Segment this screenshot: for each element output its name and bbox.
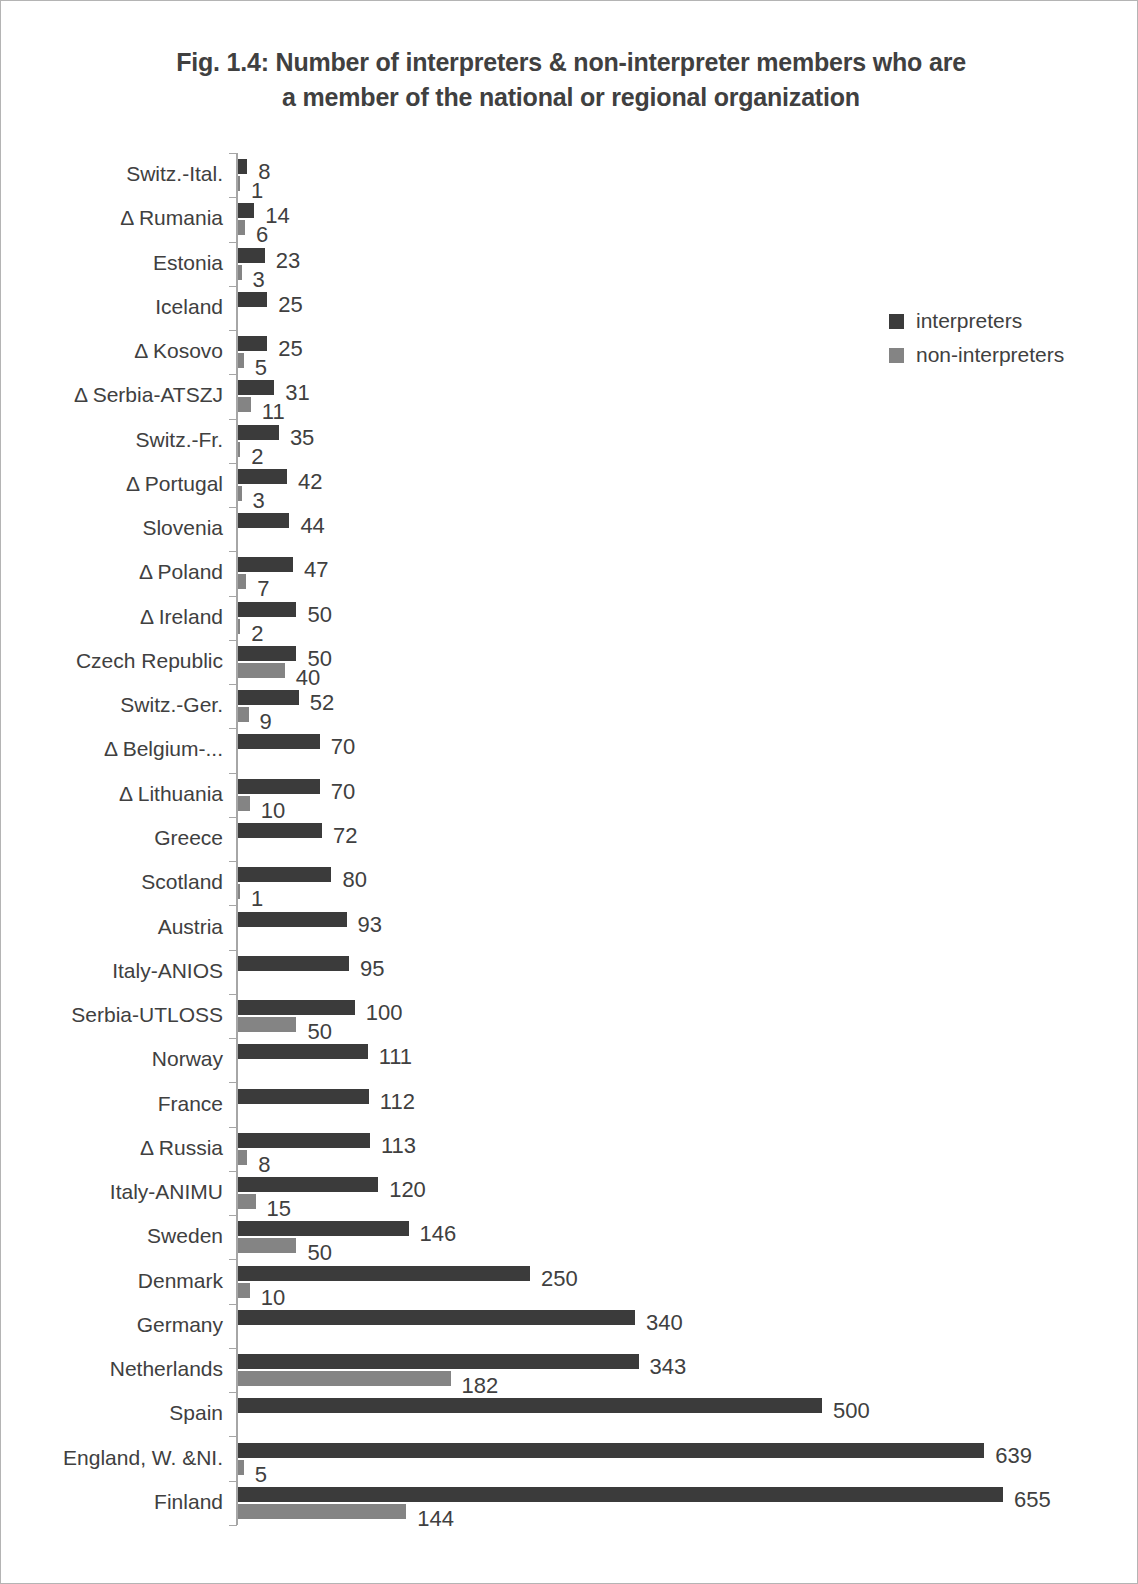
chart-category-row: Δ Kosovo255 — [1, 330, 1138, 374]
axis-tick — [229, 640, 237, 641]
category-label: Finland — [1, 1490, 223, 1514]
category-label: Δ Kosovo — [1, 339, 223, 363]
bar-non-interpreters — [238, 442, 240, 457]
chart-title-line-2: a member of the national or regional org… — [121, 80, 1021, 115]
category-label: Greece — [1, 826, 223, 850]
axis-tick — [229, 1215, 237, 1216]
bar-interpreters — [238, 912, 347, 927]
axis-tick — [229, 242, 237, 243]
bar-non-interpreters — [238, 619, 240, 634]
axis-tick — [229, 1348, 237, 1349]
category-label: Germany — [1, 1313, 223, 1337]
chart-category-row: Switz.-Ger.529 — [1, 684, 1138, 728]
bar-value-interpreters: 113 — [381, 1135, 416, 1157]
category-label: Sweden — [1, 1224, 223, 1248]
bar-value-interpreters: 80 — [342, 869, 366, 891]
chart-category-row: Δ Russia1138 — [1, 1127, 1138, 1171]
chart-category-row: Austria93 — [1, 905, 1138, 949]
axis-tick — [229, 507, 237, 508]
chart-category-row: Scotland801 — [1, 861, 1138, 905]
chart-category-row: Denmark25010 — [1, 1259, 1138, 1303]
axis-tick — [229, 286, 237, 287]
chart-category-row: Spain500 — [1, 1392, 1138, 1436]
chart-title: Fig. 1.4: Number of interpreters & non-i… — [121, 45, 1021, 114]
bar-value-interpreters: 111 — [379, 1046, 412, 1068]
category-label: Switz.-Ital. — [1, 162, 223, 186]
bar-value-interpreters: 120 — [389, 1179, 426, 1201]
category-label: France — [1, 1092, 223, 1116]
bar-non-interpreters — [238, 353, 244, 368]
bar-value-interpreters: 93 — [358, 914, 382, 936]
bar-non-interpreters — [238, 1017, 296, 1032]
axis-tick — [229, 551, 237, 552]
chart-category-row: Δ Ireland502 — [1, 596, 1138, 640]
bar-value-interpreters: 70 — [331, 781, 355, 803]
chart-category-row: Δ Serbia-ATSZJ3111 — [1, 374, 1138, 418]
bar-value-non-interpreters: 144 — [417, 1508, 454, 1530]
bar-interpreters — [238, 823, 322, 838]
bar-non-interpreters — [238, 1504, 406, 1519]
bar-interpreters — [238, 425, 279, 440]
category-label: Italy-ANIMU — [1, 1180, 223, 1204]
bar-value-interpreters: 112 — [380, 1091, 415, 1113]
bar-interpreters — [238, 1487, 1003, 1502]
bar-interpreters — [238, 1000, 355, 1015]
axis-tick — [229, 374, 237, 375]
axis-tick — [229, 684, 237, 685]
bar-interpreters — [238, 380, 274, 395]
bar-non-interpreters — [238, 884, 240, 899]
category-label: Czech Republic — [1, 649, 223, 673]
category-label: Δ Rumania — [1, 206, 223, 230]
category-label: Δ Poland — [1, 560, 223, 584]
bar-value-interpreters: 250 — [541, 1268, 578, 1290]
category-label: Scotland — [1, 870, 223, 894]
chart-category-row: Δ Portugal423 — [1, 463, 1138, 507]
bar-non-interpreters — [238, 220, 245, 235]
category-label: Estonia — [1, 251, 223, 275]
chart-category-row: Estonia233 — [1, 242, 1138, 286]
bar-interpreters — [238, 336, 267, 351]
bar-interpreters — [238, 248, 265, 263]
axis-tick — [229, 1127, 237, 1128]
category-label: Denmark — [1, 1269, 223, 1293]
bar-interpreters — [238, 1266, 530, 1281]
category-label: Spain — [1, 1401, 223, 1425]
chart-category-row: Δ Rumania146 — [1, 197, 1138, 241]
bar-value-interpreters: 47 — [304, 559, 328, 581]
axis-tick — [229, 463, 237, 464]
axis-tick — [229, 1082, 237, 1083]
bar-interpreters — [238, 1177, 378, 1192]
bar-value-interpreters: 50 — [307, 604, 331, 626]
chart-category-row: England, W. &NI.6395 — [1, 1436, 1138, 1480]
bar-value-interpreters: 500 — [833, 1400, 870, 1422]
category-label: Δ Lithuania — [1, 782, 223, 806]
axis-tick — [229, 994, 237, 995]
bar-value-interpreters: 340 — [646, 1312, 683, 1334]
category-label: Δ Russia — [1, 1136, 223, 1160]
bar-value-interpreters: 146 — [420, 1223, 457, 1245]
chart-category-row: Δ Belgium-...70 — [1, 728, 1138, 772]
chart-category-row: Finland655144 — [1, 1481, 1138, 1525]
bar-interpreters — [238, 1221, 409, 1236]
axis-tick — [229, 905, 237, 906]
bar-non-interpreters — [238, 265, 242, 280]
bar-interpreters — [238, 203, 254, 218]
bar-interpreters — [238, 1044, 368, 1059]
bar-value-interpreters: 100 — [366, 1002, 403, 1024]
bar-value-interpreters: 25 — [278, 338, 302, 360]
axis-tick — [229, 1481, 237, 1482]
bar-non-interpreters — [238, 176, 240, 191]
bar-non-interpreters — [238, 574, 246, 589]
bar-value-interpreters: 42 — [298, 471, 322, 493]
chart-category-row: Germany340 — [1, 1304, 1138, 1348]
chart-page: Fig. 1.4: Number of interpreters & non-i… — [0, 0, 1138, 1584]
bar-interpreters — [238, 734, 320, 749]
category-label: Δ Belgium-... — [1, 737, 223, 761]
axis-tick — [229, 1304, 237, 1305]
bar-non-interpreters — [238, 397, 251, 412]
bar-interpreters — [238, 867, 331, 882]
chart-category-row: Switz.-Fr.352 — [1, 419, 1138, 463]
axis-tick — [229, 1171, 237, 1172]
chart-category-row: Czech Republic5040 — [1, 640, 1138, 684]
bar-value-interpreters: 35 — [290, 427, 314, 449]
